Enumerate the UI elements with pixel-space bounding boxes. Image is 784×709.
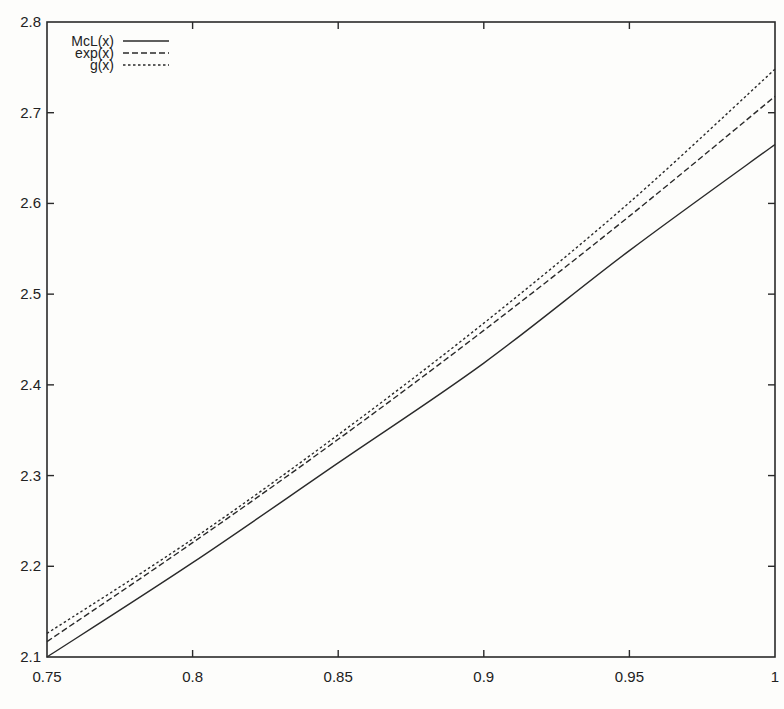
y-tick-label: 2.6 (20, 194, 41, 211)
x-tick-label: 0.75 (32, 668, 61, 685)
legend-label: g(x) (90, 57, 114, 73)
x-tick-label: 0.85 (324, 668, 353, 685)
line-chart: 0.750.80.850.90.951 2.12.22.32.42.52.62.… (0, 0, 784, 709)
curve-mclx (47, 144, 775, 657)
y-tick-label: 2.2 (20, 557, 41, 574)
y-axis-ticks: 2.12.22.32.42.52.62.72.8 (20, 13, 775, 665)
y-tick-label: 2.1 (20, 648, 41, 665)
y-tick-label: 2.4 (20, 376, 41, 393)
x-tick-label: 1 (771, 668, 779, 685)
curve-gx (47, 69, 775, 633)
x-tick-label: 0.95 (615, 668, 644, 685)
x-tick-label: 0.8 (182, 668, 203, 685)
legend: McL(x)exp(x)g(x) (71, 33, 169, 73)
x-tick-label: 0.9 (473, 668, 494, 685)
x-axis-ticks: 0.750.80.850.90.951 (32, 22, 779, 685)
series-curves (47, 69, 775, 657)
y-tick-label: 2.8 (20, 13, 41, 30)
y-tick-label: 2.3 (20, 467, 41, 484)
plot-frame (47, 22, 775, 657)
curve-expx (47, 96, 775, 641)
y-tick-label: 2.7 (20, 104, 41, 121)
y-tick-label: 2.5 (20, 285, 41, 302)
